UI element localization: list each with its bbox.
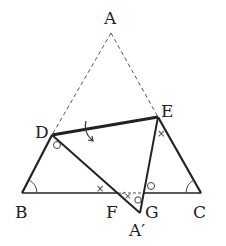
angle-arc-B bbox=[29, 180, 37, 193]
fold-line-DE bbox=[52, 117, 158, 135]
cross-mark-A-prime: × bbox=[124, 191, 132, 201]
geometry-diagram: × × × A B C D E F G A′ bbox=[0, 0, 226, 246]
angle-arc-C bbox=[186, 180, 194, 193]
label-A-prime: A′ bbox=[128, 220, 145, 240]
dashed-segment-AE bbox=[111, 33, 158, 117]
segment-BD bbox=[22, 135, 52, 193]
segment-EA-prime bbox=[140, 117, 158, 213]
dashed-segment-AD bbox=[52, 33, 111, 135]
label-G: G bbox=[145, 202, 159, 222]
label-B: B bbox=[15, 202, 28, 222]
circle-mark-G bbox=[148, 183, 155, 190]
fold-arrow-icon bbox=[85, 121, 92, 140]
circle-mark-A-prime bbox=[135, 197, 141, 203]
label-E: E bbox=[161, 101, 173, 121]
circle-mark-D bbox=[54, 142, 61, 149]
cross-mark-F: × bbox=[96, 183, 104, 194]
label-F: F bbox=[106, 202, 118, 222]
label-C: C bbox=[193, 202, 206, 222]
cross-mark-E: × bbox=[157, 128, 165, 139]
label-A: A bbox=[103, 8, 117, 28]
segment-DA-prime bbox=[52, 135, 140, 213]
label-D: D bbox=[35, 122, 49, 142]
